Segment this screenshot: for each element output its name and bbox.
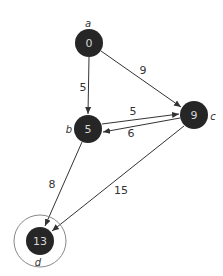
- edge-label-c-d: 15: [114, 184, 128, 197]
- edge-a-c: [101, 51, 181, 107]
- edge-c-b: [103, 118, 180, 132]
- node-c-value: 9: [191, 109, 198, 122]
- edge-a-b: [88, 57, 89, 114]
- edge-label-a-c: 9: [140, 64, 147, 77]
- node-a-value: 0: [86, 37, 93, 50]
- node-b: 5 b: [66, 115, 102, 143]
- edge-label-b-c: 5: [130, 105, 137, 118]
- edge-label-b-d: 8: [49, 178, 56, 191]
- edge-label-c-b: 6: [128, 127, 135, 140]
- node-b-value: 5: [85, 123, 92, 136]
- edges: [45, 51, 184, 231]
- node-d-name: d: [35, 257, 42, 268]
- graph-diagram: 5 9 5 6 8 15 0 a 5 b 9 c 13 d: [0, 0, 223, 276]
- node-c: 9 c: [180, 101, 216, 129]
- edge-label-a-b: 5: [80, 81, 87, 94]
- node-a-name: a: [85, 18, 91, 29]
- node-a: 0 a: [75, 18, 103, 58]
- node-d: 13 d: [26, 227, 54, 268]
- edge-b-c: [102, 114, 179, 124]
- node-d-value: 13: [33, 235, 47, 248]
- edge-c-d: [52, 126, 184, 231]
- node-b-name: b: [66, 124, 72, 135]
- node-c-name: c: [210, 111, 216, 122]
